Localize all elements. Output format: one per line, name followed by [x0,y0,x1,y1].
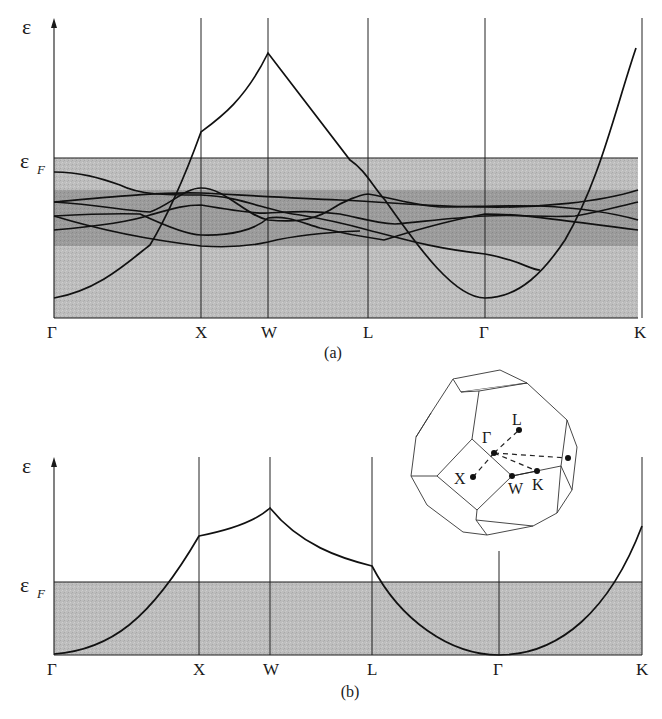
k-label-gamma: Γ [479,323,489,342]
k-label-gamma-start: Γ [47,323,57,342]
k-label-x: X [195,323,207,342]
w-point-dot [509,473,515,479]
axis-arrow-icon-b [51,457,57,467]
axis-arrow-icon [51,18,57,28]
k-point-dot [534,468,540,474]
fermi-energy-subscript: F [36,162,46,177]
brillouin-zone-diagram: L Γ X W K [411,370,577,535]
fermi-energy-label-b: ε [20,572,29,597]
x-point-dot [470,474,476,480]
k-label-l-b: L [367,660,377,679]
energy-axis-label: ε [22,14,31,39]
bz-label-k: K [532,476,544,493]
bz-label-w: W [508,480,524,497]
k-label-gamma-b: Γ [493,660,503,679]
panel-a-caption: (a) [324,344,342,362]
k-point-dot-2 [565,455,571,461]
panel-b-caption: (b) [341,683,360,701]
k-label-l: L [363,323,373,342]
fermi-energy-subscript-b: F [36,586,46,601]
gamma-point-dot [491,450,497,456]
fermi-energy-label: ε [20,148,29,173]
bz-label-l: L [512,411,522,428]
energy-axis-label-b: ε [22,453,31,478]
bz-label-gamma: Γ [482,429,491,446]
bz-label-x: X [454,470,466,487]
k-label-w: W [261,323,278,342]
k-label-w-b: W [263,660,280,679]
band-structure-figure: ε ε F Γ X W L Γ K (a) ε ε F Γ X W L Γ K … [0,0,662,719]
panel-a: ε ε F Γ X W L Γ K (a) [20,14,647,362]
k-label-gamma-start-b: Γ [47,660,57,679]
occupied-region-b [54,582,642,655]
k-label-k-b: K [636,660,649,679]
k-label-x-b: X [193,660,205,679]
k-label-k: K [634,323,647,342]
